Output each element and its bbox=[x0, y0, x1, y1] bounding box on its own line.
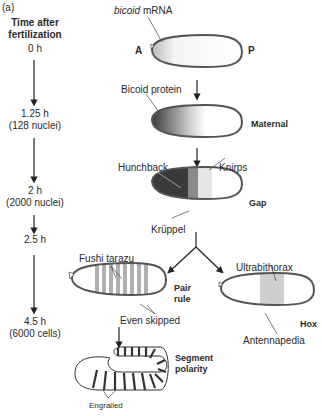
fushi-tarazu-label: Fushi tarazu bbox=[79, 253, 134, 265]
segment-polarity-label-2: polarity bbox=[175, 363, 208, 375]
anterior-label: A bbox=[135, 45, 142, 57]
embryo-hox bbox=[219, 270, 314, 310]
posterior-label: P bbox=[248, 45, 255, 57]
embryo-maternal bbox=[146, 94, 242, 137]
timeline-stage-0: 0 h bbox=[0, 43, 70, 55]
antennapedia-label: Antennapedia bbox=[243, 335, 305, 347]
timeline-stage-1-detail: (128 nuclei) bbox=[0, 120, 70, 132]
embryo-pair-rule bbox=[69, 260, 166, 300]
bicoid-mrna-label: bicoid mRNA bbox=[114, 5, 172, 17]
knirps-label: Knirps bbox=[219, 162, 247, 174]
timeline-stage-2: 2 h bbox=[0, 185, 70, 197]
hox-label: Hox bbox=[300, 318, 317, 330]
timeline-stage-3: 2.5 h bbox=[0, 234, 70, 246]
timeline-stage-1: 1.25 h bbox=[0, 108, 70, 120]
timeline-stage-2-detail: (2000 nuclei) bbox=[0, 197, 70, 209]
timeline-title-line2: fertilization bbox=[0, 29, 70, 41]
timeline-stage-4-detail: (6000 cells) bbox=[0, 328, 70, 340]
embryo-bicoid-mrna bbox=[148, 17, 242, 67]
gap-label: Gap bbox=[249, 197, 267, 209]
panel-label: (a) bbox=[2, 2, 14, 14]
timeline-title-line1: Time after bbox=[0, 17, 70, 29]
maternal-label: Maternal bbox=[251, 118, 288, 130]
engrailed-label: Engrailed bbox=[89, 400, 123, 412]
ultrabithorax-label: Ultrabithorax bbox=[236, 262, 293, 274]
timeline-stage-4: 4.5 h bbox=[0, 316, 70, 328]
kruppel-label: Krüppel bbox=[151, 224, 185, 236]
even-skipped-label: Even skipped bbox=[120, 315, 180, 327]
bicoid-protein-label: Bicoid protein bbox=[121, 84, 182, 96]
pair-rule-label-2: rule bbox=[174, 293, 191, 305]
hunchback-label: Hunchback bbox=[118, 162, 168, 174]
embryo-segment-polarity bbox=[75, 347, 168, 390]
